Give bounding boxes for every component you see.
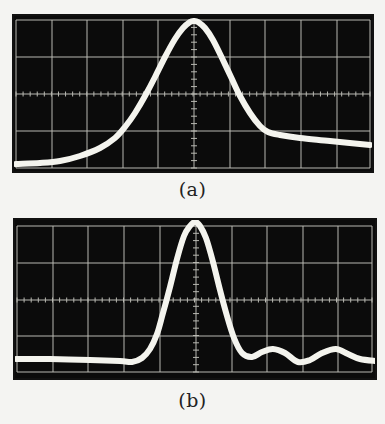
oscilloscope-screen-b [0,0,385,424]
caption-b: (b) [0,389,385,411]
figure-panel-b: (b) [0,0,385,424]
